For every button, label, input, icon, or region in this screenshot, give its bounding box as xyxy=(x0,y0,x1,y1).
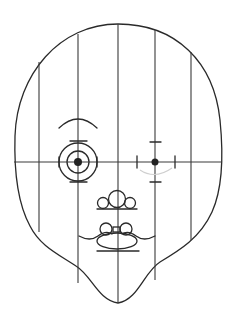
right-eye-faint-arc xyxy=(140,168,172,175)
nose-left-wing xyxy=(98,198,109,209)
mouth xyxy=(79,223,155,251)
vertical-grid-lines xyxy=(39,24,191,303)
nose-right-wing xyxy=(125,198,136,209)
left-eye-pupil xyxy=(74,158,82,166)
face-drawing xyxy=(0,0,235,322)
nose-tip xyxy=(109,191,126,208)
nose xyxy=(97,191,137,210)
mouth-center-square xyxy=(113,227,120,232)
right-eye-pupil xyxy=(152,159,159,166)
face-diagram xyxy=(0,0,235,322)
lower-lip xyxy=(97,233,137,249)
